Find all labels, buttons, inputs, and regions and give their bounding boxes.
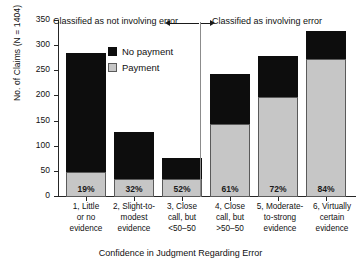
bar-3-segment-no-payment [162,158,202,179]
legend-item-payment[interactable]: Payment [108,60,173,74]
x-label-1-line3: evidence [62,223,110,234]
annotation-involving-error: Classified as involving error [212,15,357,27]
bar-5-segment-payment [258,97,298,197]
x-label-2-line3: evidence [108,223,160,234]
bar-4[interactable]: 61% [210,74,250,197]
x-label-4-line1: 4, Close [206,201,254,212]
x-label-3-line2: call, but [158,212,206,223]
bar-6[interactable]: 84% [306,31,346,197]
y-tick-label: 100 [36,140,50,151]
stacked-bar-chart: No. of Claims (N = 1404) 350 300 250 200… [0,0,361,270]
bar-6-segment-payment [306,59,346,197]
x-label-3-line3: <50–50 [158,223,206,234]
x-label-4-line3: >50–50 [206,223,254,234]
group-divider-line [200,22,201,197]
legend-item-no-payment[interactable]: No payment [108,44,173,58]
bar-1-percent-label: 19% [66,184,106,194]
legend-swatch-icon [108,47,117,56]
bar-2-segment-no-payment [114,132,154,179]
bar-5-segment-no-payment [258,56,298,97]
bar-3-percent-label: 52% [162,184,202,194]
bar-4-percent-label: 61% [210,184,250,194]
x-label-6-line3: evidence [306,223,358,234]
bar-5[interactable]: 72% [258,56,298,197]
y-tick-label: 250 [36,64,50,75]
y-tick-label: 300 [36,39,50,50]
x-label-5-line2: to-strong [252,212,308,223]
legend-label: No payment [122,46,173,57]
x-label-6: 6, Virtually certain evidence [306,201,358,234]
x-label-4: 4, Close call, but >50–50 [206,201,254,234]
x-label-1: 1, Little or no evidence [62,201,110,234]
x-label-2-line1: 2, Slight-to- [108,201,160,212]
bar-1[interactable]: 19% [66,53,106,197]
x-label-5-line1: 5, Moderate- [252,201,308,212]
y-tick-label: 150 [36,115,50,126]
bar-2-percent-label: 32% [114,184,154,194]
plot-area: 19% 32% 52% 61% 72% 84% [58,20,356,197]
bar-6-percent-label: 84% [306,184,346,194]
x-label-5: 5, Moderate- to-strong evidence [252,201,308,234]
x-label-6-line1: 6, Virtually [306,201,358,212]
x-axis-labels: 1, Little or no evidence 2, Slight-to- m… [58,201,356,243]
x-label-6-line2: certain [306,212,358,223]
x-label-4-line2: call, but [206,212,254,223]
annotation-not-involving-error: Classified as not involving error [53,15,203,27]
x-axis-title: Confidence in Judgment Regarding Error [0,248,361,258]
y-tick-label: 0 [45,190,50,201]
y-tick-label: 200 [36,89,50,100]
x-label-3-line1: 3, Close [158,201,206,212]
bar-5-percent-label: 72% [258,184,298,194]
x-label-3: 3, Close call, but <50–50 [158,201,206,234]
bar-2[interactable]: 32% [114,132,154,197]
legend: No payment Payment [108,44,173,76]
x-label-2: 2, Slight-to- modest evidence [108,201,160,234]
x-label-1-line2: or no [62,212,110,223]
y-tick-label: 350 [36,14,50,25]
bar-1-segment-no-payment [66,53,106,172]
x-label-5-line3: evidence [252,223,308,234]
x-label-1-line1: 1, Little [62,201,110,212]
x-label-2-line2: modest [108,212,160,223]
legend-swatch-icon [108,63,117,72]
bar-3[interactable]: 52% [162,158,202,197]
legend-label: Payment [122,62,160,73]
y-tick-label: 50 [41,165,50,176]
bar-4-segment-no-payment [210,74,250,124]
bar-6-segment-no-payment [306,31,346,59]
